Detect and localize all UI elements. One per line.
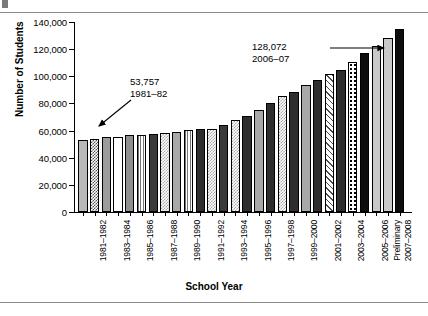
annotation-right-arrow xyxy=(0,0,428,316)
chart-figure: Number of Students School Year 020,00040… xyxy=(0,0,428,316)
